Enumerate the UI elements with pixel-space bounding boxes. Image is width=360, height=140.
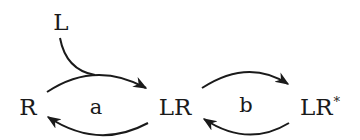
arrow-l-join bbox=[60, 38, 95, 75]
node-r: R bbox=[19, 96, 36, 119]
rate-label-a: a bbox=[90, 97, 103, 118]
node-lr-star: LR* bbox=[300, 95, 340, 119]
rate-label-b: b bbox=[239, 95, 252, 116]
node-lr-star-label: LR bbox=[300, 94, 333, 120]
arrow-lr-to-lrstar bbox=[202, 72, 288, 88]
arrow-lrstar-to-lr bbox=[204, 119, 289, 135]
arrow-lr-to-r bbox=[48, 117, 148, 135]
node-lr-star-superscript: * bbox=[334, 94, 341, 109]
node-lr: LR bbox=[159, 96, 192, 119]
reaction-diagram: L R LR LR* a b bbox=[0, 0, 360, 140]
arrow-r-to-lr bbox=[47, 75, 146, 92]
node-l: L bbox=[53, 11, 68, 34]
